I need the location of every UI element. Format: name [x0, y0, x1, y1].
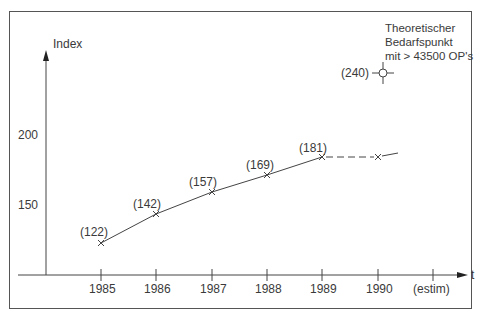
- y-tick-label: 150: [18, 199, 38, 211]
- annotation-line: Theoretischer: [385, 21, 473, 35]
- x-tick-label: 1987: [200, 283, 227, 295]
- data-label: (142): [133, 198, 161, 210]
- annotation-text: Theoretischer Bedarfspunkt mit > 43500 O…: [385, 21, 473, 63]
- target-point-icon: [372, 62, 394, 84]
- x-tick-label: (estim): [413, 283, 450, 295]
- data-label: (157): [189, 176, 217, 188]
- y-axis-arrow-icon: [43, 50, 49, 61]
- data-label: (122): [80, 226, 108, 238]
- x-tick-label: 1989: [310, 283, 337, 295]
- annotation-value-label: (240): [341, 67, 369, 79]
- x-axis-arrow-icon: [457, 272, 468, 278]
- x-tick-label: 1988: [255, 283, 282, 295]
- x-axis-label: t: [471, 269, 474, 281]
- series-line-extension: [382, 153, 398, 156]
- x-tick-label: 1986: [144, 283, 171, 295]
- annotation-line: Bedarfspunkt: [385, 35, 473, 49]
- annotation-line: mit > 43500 OP's: [385, 49, 473, 63]
- y-axis-label: Index: [53, 38, 82, 50]
- y-tick-label: 200: [18, 129, 38, 141]
- x-tick-label: 1990: [366, 283, 393, 295]
- x-tick-label: 1985: [89, 283, 116, 295]
- data-label: (169): [246, 159, 274, 171]
- data-label: (181): [299, 142, 327, 154]
